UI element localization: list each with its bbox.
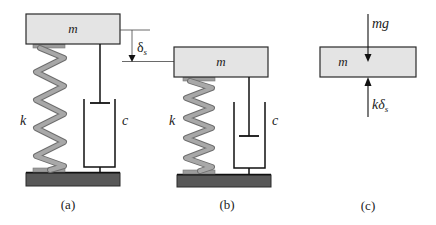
spring-force-label-main: kδ <box>372 97 385 112</box>
deflection-subscript: s <box>144 47 148 57</box>
panel-a: m k c (a) <box>20 14 129 212</box>
ground-a <box>26 173 120 186</box>
caption-b: (b) <box>219 197 234 212</box>
mass-b-label: m <box>216 54 225 69</box>
damper-b-label: c <box>272 113 279 128</box>
spring-a-label: k <box>20 113 27 128</box>
mass-c-label: m <box>338 54 347 69</box>
panel-b: m k c (b) <box>169 47 279 212</box>
spring-force-label-sub: s <box>385 104 389 114</box>
spring-mass-damper-diagram: m k c (a) δs m k c (b) <box>0 0 436 225</box>
spring-force-label: kδs <box>372 97 389 114</box>
damper-a-cylinder <box>84 99 115 167</box>
deflection-arrow-head-icon <box>129 55 136 62</box>
caption-a: (a) <box>61 197 75 212</box>
spring-force-arrow-head-icon <box>365 77 372 86</box>
deflection-label: δs <box>137 40 148 57</box>
ground-b <box>177 175 271 187</box>
static-deflection-indicator: δs <box>120 30 174 62</box>
panel-c: m mg kδs (c) <box>320 14 416 213</box>
spring-b-label: k <box>169 113 176 128</box>
mass-a-label: m <box>68 21 77 36</box>
weight-label: mg <box>372 16 389 31</box>
caption-c: (c) <box>361 198 375 213</box>
damper-a-label: c <box>122 113 129 128</box>
